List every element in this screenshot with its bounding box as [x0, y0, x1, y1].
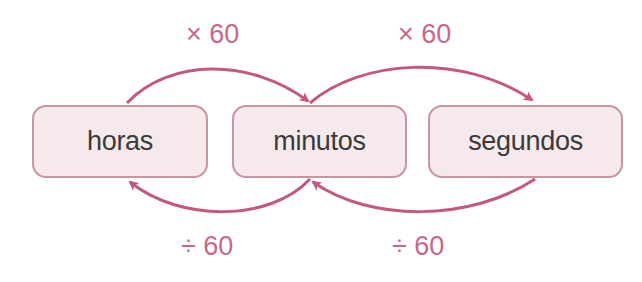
- unit-label: segundos: [468, 126, 583, 157]
- label-segundos-to-minutos: ÷ 60: [392, 231, 444, 261]
- arrow-horas-to-minutos: [127, 69, 308, 103]
- label-minutos-to-horas: ÷ 60: [181, 231, 233, 261]
- label-minutos-to-segundos: × 60: [398, 19, 451, 49]
- label-horas-to-minutos: × 60: [186, 19, 239, 49]
- unit-box-segundos: segundos: [428, 105, 623, 178]
- arrow-minutos-to-segundos: [310, 67, 532, 103]
- arrow-segundos-to-minutos: [313, 179, 535, 212]
- unit-box-minutos: minutos: [232, 105, 407, 178]
- unit-box-horas: horas: [32, 105, 208, 178]
- unit-label: minutos: [273, 126, 365, 157]
- unit-label: horas: [87, 126, 153, 157]
- arrow-minutos-to-horas: [130, 179, 310, 212]
